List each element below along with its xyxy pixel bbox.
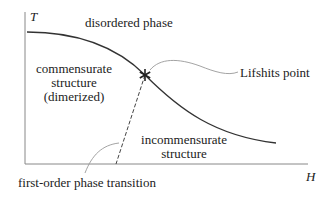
commensurate-region-label: commensurate structure (dimerized)	[28, 62, 120, 104]
commensurate-line-2: structure	[28, 76, 120, 90]
commensurate-line-3: (dimerized)	[28, 90, 120, 104]
first-order-transition-label: first-order phase transition	[18, 176, 156, 190]
incommensurate-region-label: incommensurate structure	[138, 133, 230, 161]
lifshits-leader-line	[150, 60, 238, 73]
first-order-leader-line	[85, 143, 119, 173]
incommensurate-line-1: incommensurate	[138, 133, 230, 147]
commensurate-line-1: commensurate	[28, 62, 120, 76]
incommensurate-line-2: structure	[138, 147, 230, 161]
lifshits-point-label: Lifshits point	[240, 66, 310, 80]
y-axis-label: T	[30, 10, 37, 24]
disordered-phase-label: disordered phase	[85, 16, 173, 30]
x-axis-label: H	[306, 170, 315, 184]
